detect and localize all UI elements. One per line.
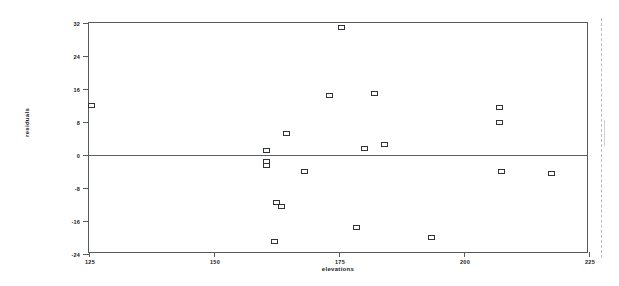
scan-artifact-line — [601, 18, 602, 258]
scatter-point — [271, 239, 278, 244]
y-axis-tick: 16 — [83, 89, 89, 90]
scatter-point — [263, 148, 270, 153]
scatter-point — [338, 25, 345, 30]
x-axis-tick-label: 125 — [85, 259, 95, 265]
y-axis-title: residuals — [24, 108, 30, 137]
x-axis-tick: 175 — [339, 252, 340, 257]
scatter-point — [88, 103, 95, 108]
y-axis-tick: -16 — [83, 221, 89, 222]
y-axis-tick-label: 16 — [73, 87, 80, 93]
scatter-point — [283, 131, 290, 136]
x-axis-tick-label: 175 — [335, 259, 345, 265]
plot-area: 32241680-8-16-24 125150175200225 — [88, 22, 588, 253]
scan-artifact-line-secondary — [604, 120, 605, 146]
scatter-point — [278, 204, 285, 209]
scatter-point — [371, 91, 378, 96]
x-axis-tick: 200 — [464, 252, 465, 257]
scatter-point — [496, 105, 503, 110]
scatter-point — [496, 120, 503, 125]
y-axis-tick: -8 — [83, 188, 89, 189]
y-axis-tick-label: -16 — [71, 219, 80, 225]
scatter-point — [353, 225, 360, 230]
x-axis-tick: 150 — [214, 252, 215, 257]
scatter-point — [326, 93, 333, 98]
x-axis-tick: 125 — [89, 252, 90, 257]
y-axis-tick-label: 0 — [77, 153, 80, 159]
scatter-point — [263, 163, 270, 168]
x-axis-tick-label: 200 — [460, 259, 470, 265]
x-axis-tick-label: 150 — [210, 259, 220, 265]
x-axis-tick: 225 — [589, 252, 590, 257]
x-axis-tick-label: 225 — [585, 259, 595, 265]
scatter-point — [548, 171, 555, 176]
scatter-point — [361, 146, 368, 151]
zero-residual-line — [89, 155, 587, 156]
scatter-point — [498, 169, 505, 174]
y-axis-tick: 32 — [83, 23, 89, 24]
y-axis-tick-label: 32 — [73, 21, 80, 27]
scatter-point — [428, 235, 435, 240]
y-axis-tick-label: -24 — [71, 252, 80, 258]
y-axis-tick: 8 — [83, 122, 89, 123]
y-axis-tick: 0 — [83, 155, 89, 156]
y-axis-tick: 24 — [83, 56, 89, 57]
x-axis-title: elevations — [88, 266, 588, 272]
y-axis-tick-label: -8 — [75, 186, 80, 192]
scatter-point — [381, 142, 388, 147]
scatter-point — [301, 169, 308, 174]
y-axis-tick-label: 8 — [77, 120, 80, 126]
y-axis-tick-label: 24 — [73, 54, 80, 60]
residual-plot-figure: 32241680-8-16-24 125150175200225 elevati… — [0, 0, 619, 286]
